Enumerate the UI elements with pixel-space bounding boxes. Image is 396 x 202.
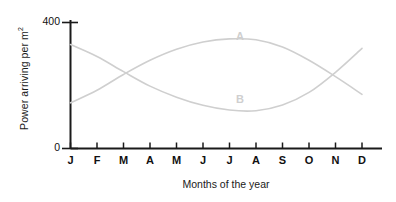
y-axis-label-text: Power arriving per m: [18, 31, 30, 130]
plot-area: [0, 0, 396, 202]
x-tick-label-september: S: [273, 154, 293, 166]
x-tick-label-january: J: [61, 154, 81, 166]
x-tick-label-march: M: [114, 154, 134, 166]
x-tick-label-may: M: [167, 154, 187, 166]
x-tick-label-july: J: [220, 154, 240, 166]
x-tick-label-june: J: [193, 154, 213, 166]
y-tick-label-400: 400: [22, 15, 60, 27]
series-line-a: [71, 39, 363, 103]
x-axis-label: Months of the year: [70, 178, 382, 190]
x-tick-label-november: N: [326, 154, 346, 166]
series-label-a: A: [232, 30, 248, 42]
y-tick-label-0: 0: [22, 141, 60, 153]
chart-figure: Power arriving per m2 400 0 JFMAMJJASOND…: [0, 0, 396, 202]
y-axis-label-superscript: 2: [17, 27, 24, 31]
x-tick-label-october: O: [299, 154, 319, 166]
series-line-b: [71, 45, 363, 112]
x-tick-label-february: F: [87, 154, 107, 166]
x-tick-label-december: D: [352, 154, 372, 166]
x-tick-label-august: A: [246, 154, 266, 166]
x-tick-label-april: A: [140, 154, 160, 166]
series-label-b: B: [232, 93, 248, 105]
